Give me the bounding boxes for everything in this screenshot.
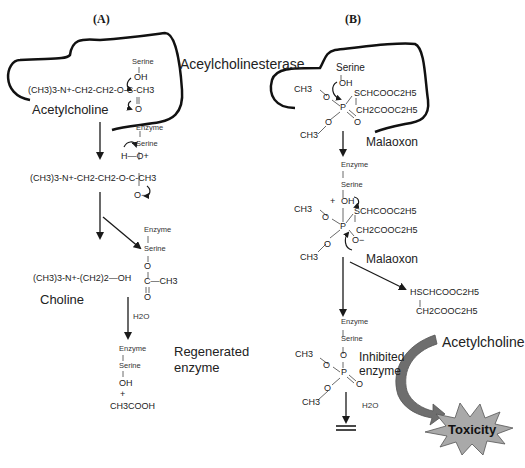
tetrahedral-intermediate-formula: (CH3)3-N+-CH2-CH2-O-C-CH3 (30, 174, 156, 183)
choline-formula: (CH3)3-N+-(CH2)2—OH (33, 274, 131, 283)
acetylcholine-label: Acetylcholine (32, 103, 109, 116)
phosphoryl-oxygen-b1: O (354, 118, 361, 127)
oxyanion-label-b: O− (352, 236, 364, 245)
acetylcholine-formula: (CH3)3-N+-CH2-CH2-O-C-CH3 (28, 86, 154, 95)
phosphorus-label-b1: P (340, 103, 346, 112)
thioester-label-b1: SCHCOOC2H5 (354, 89, 417, 98)
serine-label-4: Serine (119, 362, 141, 370)
acetylcholine-label-b: Acetylcholine (442, 335, 525, 349)
leaving-group-line1: HSCHCOOC2H5 (410, 288, 479, 297)
hydroxyl-label: OH (134, 73, 148, 82)
ester-label-b2: CH2COOC2H5 (356, 226, 418, 235)
acyl-oxygen: O (144, 262, 151, 271)
plus-sign-a: + (120, 390, 125, 399)
enzyme-label-4: Enzyme (119, 345, 146, 353)
enzyme-label-3: Enzyme (144, 226, 171, 234)
enzyme-label-2: Enzyme (136, 124, 163, 132)
inhibition-curved-arrow (396, 335, 445, 425)
leaving-group-line2: CH2COOC2H5 (416, 307, 478, 316)
serine-label-b2: Serine (341, 181, 363, 189)
methyl-label-b5: CH3 (295, 350, 313, 359)
panel-b-label: (B) (345, 13, 361, 25)
oxygen-label-b6: O (323, 361, 330, 370)
ester-label-b1: CH2COOC2H5 (356, 106, 418, 115)
hydroxyl-label-b2: OH (341, 197, 355, 206)
methyl-label-b3: CH3 (294, 205, 312, 214)
methyl-label-b6: CH3 (302, 398, 320, 407)
oxygen-label-b2: O (325, 118, 332, 127)
oxygen-label-b7: O (324, 384, 331, 393)
carbonyl-oxygen: O (135, 105, 142, 114)
enzyme-label: Aceylcholinesterase (180, 57, 305, 71)
oxyanion-label: O− (134, 191, 146, 200)
acetic-acid-formula: CH3COOH (110, 402, 155, 411)
malaoxon-label: Malaoxon (366, 136, 418, 148)
serine-label-b: Serine (336, 63, 365, 73)
inhibited-label-line1: Inhibited (359, 351, 404, 363)
regenerated-hydroxyl: OH (119, 379, 133, 388)
acyl-carbonyl-oxygen: O (144, 293, 151, 302)
thioester-label-b2: SCHCOOC2H5 (354, 207, 417, 216)
serine-label-2: Serine (136, 140, 158, 148)
choline-label: Choline (40, 293, 84, 306)
water-label-a: H2O (133, 313, 149, 321)
phosphorus-label-b2: P (340, 222, 346, 231)
hydroxyl-label-b: OH (339, 79, 353, 88)
oxygen-label-b4: O (324, 240, 331, 249)
plus-sign-b: + (330, 197, 335, 206)
oxygen-label-b1: O (323, 93, 330, 102)
oxygen-label-b5: O (340, 351, 347, 360)
enzyme-label-b3: Enzyme (341, 318, 368, 326)
acyl-carbon: C—CH3 (144, 277, 178, 286)
enzyme-label-b: Enzyme (341, 161, 368, 169)
methyl-label-b1: CH3 (294, 85, 312, 94)
oxygen-label-b3: O (322, 213, 329, 222)
regenerated-label-line2: enzyme (174, 361, 220, 374)
panel-a-label: (A) (93, 13, 110, 25)
inhibited-label-line2: enzyme (359, 365, 401, 377)
malaoxon-label-2: Malaoxon (366, 253, 418, 265)
methyl-label-b2: CH3 (300, 131, 318, 140)
serine-label-3: Serine (144, 245, 166, 253)
phosphoryl-oxygen-b3: O (356, 380, 363, 389)
regenerated-label-line1: Regenerated (174, 345, 249, 358)
protonated-hydroxyl: H—O+ (121, 152, 149, 161)
phosphorus-label-b3: P (341, 368, 347, 377)
water-label-b: H2O (362, 402, 378, 410)
methyl-label-b4: CH3 (300, 253, 318, 262)
serine-label-b3: Serine (341, 335, 363, 343)
toxicity-label: Toxicity (448, 423, 496, 436)
serine-label: Serine (132, 58, 154, 66)
